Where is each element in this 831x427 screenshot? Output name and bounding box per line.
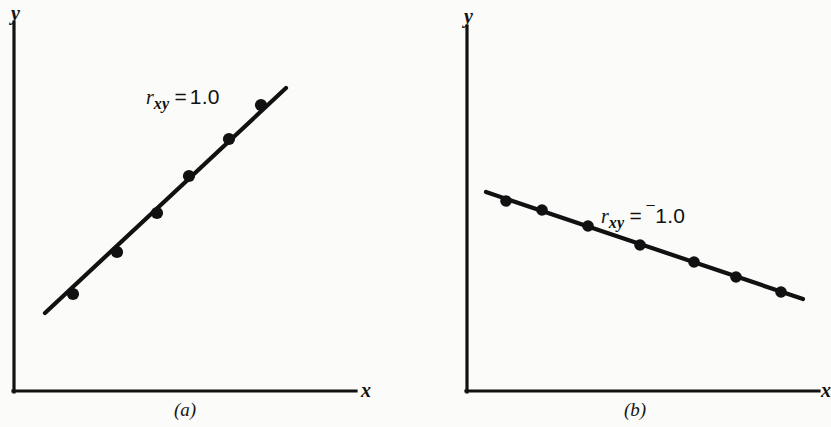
panel-b-y-axis-label: y xyxy=(464,6,473,26)
correlation-value: 1.0 xyxy=(190,85,220,108)
panel-a-plot xyxy=(0,0,415,427)
correlation-symbol: r xyxy=(601,205,609,227)
data-point xyxy=(111,246,123,258)
data-point xyxy=(500,195,512,207)
panel-a-caption: (a) xyxy=(145,400,225,419)
panel-a-fit-line xyxy=(45,88,286,313)
panel-b: y x rxy=⁻1.0 (b) xyxy=(415,0,831,427)
panel-b-x-axis-label: x xyxy=(821,380,831,400)
data-point xyxy=(183,170,195,182)
equals-sign: = xyxy=(170,85,190,108)
correlation-symbol: r xyxy=(146,86,154,108)
panel-a-x-axis-label: x xyxy=(361,380,371,400)
data-point xyxy=(223,133,235,145)
panel-a-correlation-annotation: rxy=1.0 xyxy=(146,86,220,112)
panel-b-correlation-annotation: rxy=⁻1.0 xyxy=(601,198,685,231)
equals-sign: = xyxy=(625,204,645,227)
data-point xyxy=(255,99,267,111)
data-point xyxy=(730,271,742,283)
panel-b-caption: (b) xyxy=(595,400,675,419)
correlation-subscript: xy xyxy=(609,214,625,231)
data-point xyxy=(634,239,646,251)
correlation-subscript: xy xyxy=(154,95,170,112)
figure-container: y x rxy=1.0 (a) y xyxy=(0,0,831,427)
data-point xyxy=(775,286,787,298)
data-point xyxy=(151,207,163,219)
panel-a-y-axis-label: y xyxy=(11,3,20,23)
data-point xyxy=(582,220,594,232)
data-point xyxy=(67,288,79,300)
data-point xyxy=(688,256,700,268)
panel-a: y x rxy=1.0 (a) xyxy=(0,0,415,427)
data-point xyxy=(536,204,548,216)
negative-sign: ⁻ xyxy=(645,197,656,220)
correlation-value: 1.0 xyxy=(655,204,685,227)
